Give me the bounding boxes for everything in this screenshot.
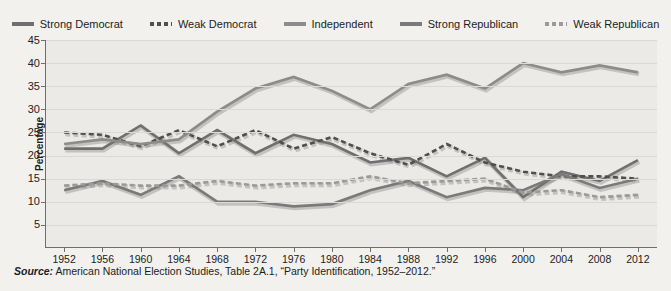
y-tick-label: 30: [0, 104, 40, 115]
source-note: Source: American National Election Studi…: [14, 265, 435, 278]
y-tick-label: 10: [0, 196, 40, 207]
gridline: [46, 40, 657, 41]
legend-item: Strong Democrat: [12, 19, 123, 30]
x-tick-mark: [370, 248, 371, 252]
legend-swatch-icon: [12, 22, 34, 26]
gridline: [46, 86, 657, 87]
legend-item-label: Strong Republican: [428, 19, 519, 30]
chart-screenshot: Strong DemocratWeak DemocratIndependentS…: [0, 0, 671, 291]
legend-item: Weak Republican: [545, 19, 659, 30]
y-tick-mark: [41, 132, 45, 133]
gridline: [46, 132, 657, 133]
plot-area: Percentage 19521956196019641968197219761…: [45, 40, 657, 248]
source-text: American National Election Studies, Tabl…: [53, 265, 435, 277]
x-tick-mark: [523, 248, 524, 252]
legend-item-label: Strong Democrat: [40, 19, 123, 30]
y-tick-label: 5: [0, 219, 40, 230]
y-tick-mark: [41, 63, 45, 64]
gridline: [46, 109, 657, 110]
series-lines: [45, 40, 657, 248]
x-tick-mark: [179, 248, 180, 252]
x-tick-mark: [600, 248, 601, 252]
y-tick-mark: [41, 202, 45, 203]
legend-swatch-icon: [150, 22, 172, 26]
x-tick-mark: [141, 248, 142, 252]
gridline: [46, 225, 657, 226]
x-tick-mark: [332, 248, 333, 252]
y-tick-label: 15: [0, 173, 40, 184]
x-tick-mark: [294, 248, 295, 252]
source-prefix: Source:: [14, 265, 53, 277]
x-tick-label: 2012: [616, 254, 660, 265]
y-axis-title: Percentage: [34, 117, 45, 171]
x-tick-mark: [102, 248, 103, 252]
y-tick-mark: [41, 86, 45, 87]
y-tick-label: 40: [0, 58, 40, 69]
x-tick-mark: [561, 248, 562, 252]
legend-item: Weak Democrat: [150, 19, 257, 30]
x-tick-mark: [408, 248, 409, 252]
x-tick-mark: [255, 248, 256, 252]
chart-legend: Strong DemocratWeak DemocratIndependentS…: [0, 14, 671, 34]
x-tick-mark: [638, 248, 639, 252]
legend-item: Independent: [284, 19, 373, 30]
legend-item: Strong Republican: [400, 19, 519, 30]
legend-swatch-icon: [545, 22, 567, 26]
legend-item-label: Independent: [312, 19, 373, 30]
y-tick-mark: [41, 225, 45, 226]
legend-swatch-icon: [284, 22, 306, 26]
x-tick-mark: [485, 248, 486, 252]
y-tick-mark: [41, 109, 45, 110]
y-tick-label: 35: [0, 81, 40, 92]
x-tick-mark: [64, 248, 65, 252]
y-tick-mark: [41, 156, 45, 157]
x-tick-mark: [217, 248, 218, 252]
y-tick-label: 45: [0, 35, 40, 46]
y-tick-mark: [41, 40, 45, 41]
y-tick-mark: [41, 179, 45, 180]
legend-item-label: Weak Democrat: [178, 19, 257, 30]
gridline: [46, 63, 657, 64]
x-tick-mark: [447, 248, 448, 252]
gridline: [46, 202, 657, 203]
gridline: [46, 156, 657, 157]
legend-item-label: Weak Republican: [573, 19, 659, 30]
legend-swatch-icon: [400, 22, 422, 26]
gridline: [46, 179, 657, 180]
